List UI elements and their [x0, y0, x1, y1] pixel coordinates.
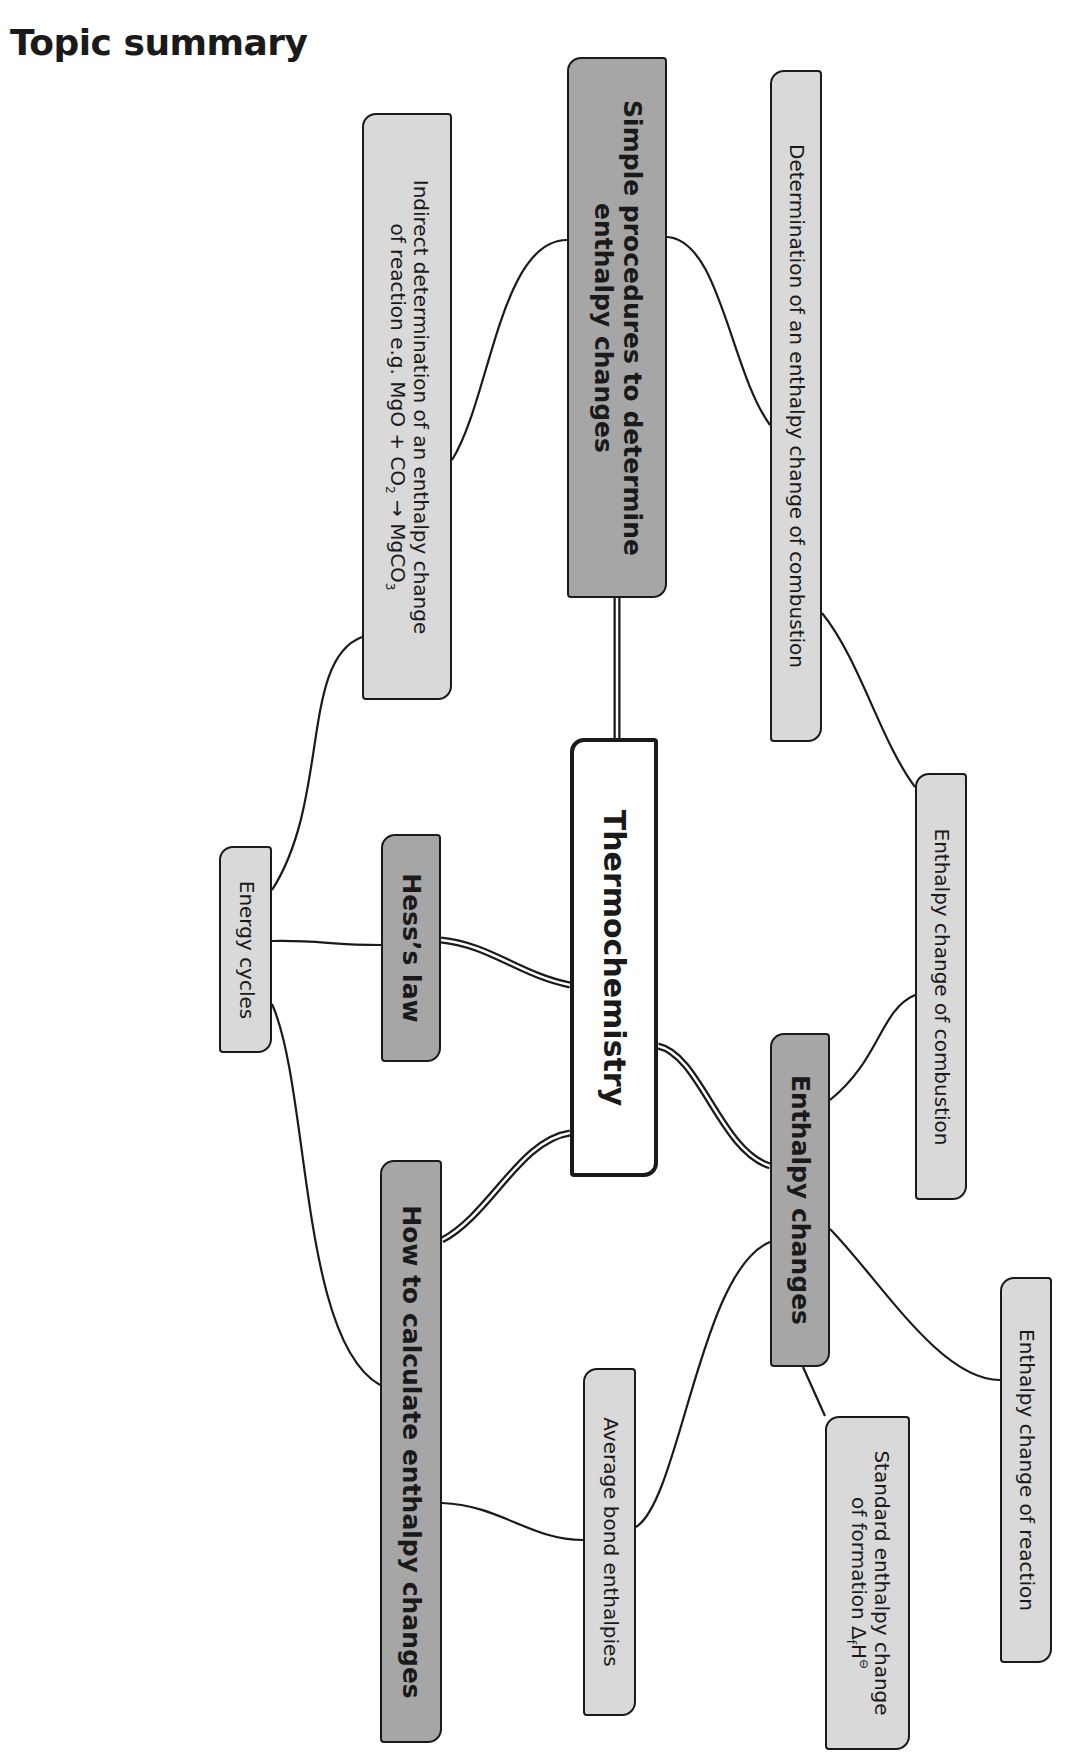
node-indirect-determination: Indirect determination of an enthalpy ch… — [362, 113, 452, 700]
node-thermochemistry: Thermochemistry — [570, 738, 658, 1177]
central-label: Thermochemistry — [597, 809, 632, 1105]
node-label-formula: of formation ΔfH⊖ — [843, 1450, 870, 1715]
node-label: Indirect determination of an enthalpy ch… — [409, 179, 432, 634]
node-label-equation: of reaction e.g. MgO + CO2 → MgCO3 — [382, 179, 409, 634]
node-label: Enthalpy change of reaction — [1015, 1329, 1038, 1611]
node-label: Enthalpy changes — [786, 1075, 815, 1325]
node-how-to-calculate: How to calculate enthalpy changes — [380, 1160, 442, 1743]
node-enthalpy-changes: Enthalpy changes — [770, 1033, 830, 1367]
equation-text: of reaction e.g. MgO + CO — [386, 223, 410, 486]
node-label: Energy cycles — [234, 880, 257, 1019]
node-label: Hess’s law — [397, 873, 426, 1022]
formula-text: H — [846, 1644, 870, 1659]
node-label: Standard enthalpy change — [869, 1450, 892, 1715]
formula-text: of formation Δ — [846, 1497, 870, 1640]
node-standard-enthalpy-formation: Standard enthalpy change of formation Δf… — [825, 1416, 910, 1750]
node-average-bond-enthalpies: Average bond enthalpies — [583, 1368, 636, 1716]
node-energy-cycles: Energy cycles — [219, 846, 272, 1053]
node-label: Simple procedures to determine — [617, 100, 646, 556]
node-enthalpy-change-combustion: Enthalpy change of combustion — [915, 773, 967, 1200]
standard-state-symbol: ⊖ — [856, 1659, 870, 1669]
equation-arrow-text: → MgCO — [386, 493, 410, 582]
node-simple-procedures: Simple procedures to determine enthalpy … — [567, 57, 667, 598]
subscript: 2 — [383, 486, 397, 494]
subscript: 3 — [383, 582, 397, 590]
node-enthalpy-change-reaction: Enthalpy change of reaction — [1000, 1277, 1052, 1663]
node-label: Enthalpy change of combustion — [930, 828, 953, 1145]
node-label: Determination of an enthalpy change of c… — [785, 144, 808, 668]
node-label: enthalpy changes — [588, 100, 617, 556]
node-determination-combustion: Determination of an enthalpy change of c… — [770, 70, 822, 742]
node-hess-law: Hess’s law — [381, 834, 441, 1062]
node-label: Average bond enthalpies — [598, 1417, 621, 1666]
node-label: How to calculate enthalpy changes — [397, 1205, 426, 1699]
